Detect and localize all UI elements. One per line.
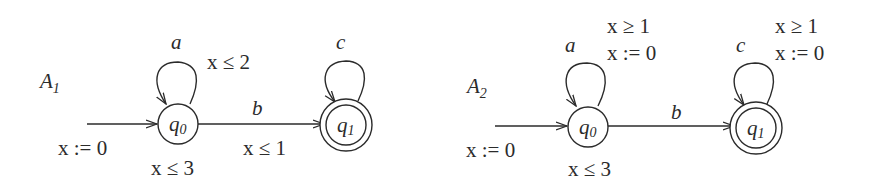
q0-self-loop	[157, 62, 196, 104]
automaton-a1-name: A1	[38, 69, 60, 96]
automaton-a1: A1 x := 0 a x ≤ 2 q0 x ≤ 3 b x ≤ 1 c q1	[38, 30, 372, 180]
q1-loop-reset: x := 0	[775, 41, 824, 65]
edge-q0-q1-action: b	[252, 96, 263, 120]
q1-self-loop	[734, 63, 773, 105]
q0-loop-guard: x ≤ 2	[207, 50, 250, 74]
edge-q0-q1-guard: x ≤ 1	[243, 136, 286, 160]
timed-automata-diagram: A1 x := 0 a x ≤ 2 q0 x ≤ 3 b x ≤ 1 c q1 …	[0, 0, 883, 190]
q0-loop-guard: x ≥ 1	[607, 14, 650, 38]
initial-reset-label: x := 0	[58, 136, 107, 160]
initial-reset-label: x := 0	[466, 138, 515, 162]
automaton-a2-name: A2	[465, 74, 487, 101]
q1-loop-action: c	[336, 30, 346, 54]
q0-self-loop	[566, 63, 605, 106]
q1-loop-guard: x ≥ 1	[775, 14, 818, 38]
q0-loop-reset: x := 0	[607, 41, 656, 65]
edge-q0-q1-action: b	[671, 100, 682, 124]
automaton-a2: A2 x := 0 a x ≥ 1 x := 0 q0 x ≤ 3 b c x …	[465, 14, 824, 181]
state-q0-invariant: x ≤ 3	[568, 157, 611, 181]
q0-loop-action: a	[565, 33, 576, 57]
state-q0-invariant: x ≤ 3	[151, 156, 194, 180]
q0-loop-action: a	[171, 30, 182, 54]
q1-loop-action: c	[736, 33, 746, 57]
q1-self-loop	[325, 61, 364, 102]
